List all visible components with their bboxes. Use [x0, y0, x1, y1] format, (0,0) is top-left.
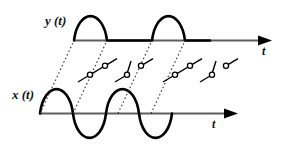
switch-1-lead-in: [78, 76, 88, 82]
switch-2-lead-out: [143, 59, 153, 65]
projection-line-4: [151, 41, 185, 114]
output-time-axis-arrowhead: [258, 36, 272, 46]
input-time-axis-arrowhead: [224, 109, 238, 119]
input-signal-label: x (t): [12, 88, 34, 101]
diagram-canvas: [0, 0, 283, 154]
switch-1-lead-out: [107, 59, 117, 65]
output-axis-group: [74, 36, 272, 46]
switch-4-terminal-left: [209, 72, 214, 77]
switch-2-blade-open: [128, 61, 132, 72]
switch-4-lead-out: [228, 59, 238, 65]
output-waveform-path: [74, 16, 210, 40]
output-signal-label: y (t): [45, 14, 66, 27]
projection-lines-group: [40, 41, 185, 114]
signal-diagram-figure: y (t) x (t) t t: [0, 0, 283, 154]
switch-2-lead-in: [115, 76, 125, 82]
switch-1-blade: [92, 67, 103, 74]
switch-symbol-4-open: [200, 59, 238, 82]
projection-line-1: [40, 41, 74, 114]
switch-4-blade-open: [213, 61, 217, 72]
switch-2-terminal-left: [124, 72, 129, 77]
input-time-axis-label: t: [212, 118, 215, 130]
switch-symbol-2-open: [115, 59, 153, 82]
switch-4-lead-in: [200, 76, 210, 82]
switch-3-blade: [177, 67, 188, 74]
output-waveform-y-of-t: [74, 16, 210, 40]
output-time-axis-label: t: [262, 45, 265, 57]
switch-3-lead-out: [192, 59, 202, 65]
switch-symbol-3-closed: [163, 59, 202, 82]
